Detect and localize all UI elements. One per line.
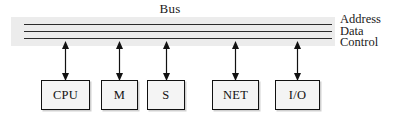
connector-arrow-m	[115, 41, 124, 81]
bus-architecture-diagram: Bus Address Data Control	[0, 0, 399, 120]
node-box-cpu: CPU	[41, 80, 90, 110]
bus-title: Bus	[0, 1, 340, 17]
node-box-s: S	[147, 80, 185, 110]
connector-arrow-s	[162, 41, 171, 81]
connector-arrow-net	[231, 41, 240, 81]
node-label-s: S	[162, 88, 169, 103]
node-label-io: I/O	[289, 88, 307, 103]
node-box-net: NET	[212, 80, 259, 110]
bus-label-control: Control	[340, 37, 381, 49]
bus-line-control	[24, 38, 332, 39]
node-label-m: M	[114, 88, 125, 103]
node-label-cpu: CPU	[53, 88, 78, 103]
bus-line-address	[24, 24, 332, 25]
connector-arrow-cpu	[61, 41, 70, 81]
connector-arrow-io	[293, 41, 302, 81]
bus-line-data	[24, 31, 332, 32]
node-label-net: NET	[223, 88, 248, 103]
bus-line-labels: Address Data Control	[340, 14, 381, 49]
node-box-m: M	[101, 80, 138, 110]
node-box-io: I/O	[275, 80, 320, 110]
